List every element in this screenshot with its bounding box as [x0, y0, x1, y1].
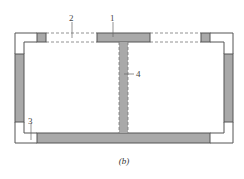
top-left-block [37, 33, 46, 42]
center-pillar [119, 42, 128, 133]
left-wall-strip [15, 54, 24, 122]
label-1: 1 [110, 13, 115, 23]
right-wall-strip [224, 54, 233, 122]
figure-caption: (b) [119, 156, 130, 166]
top-right-block [201, 33, 210, 42]
label-4: 4 [136, 69, 141, 79]
bottom-beam [37, 133, 210, 143]
label-3: 3 [28, 116, 33, 126]
top-beam [97, 33, 150, 42]
frame-diagram: 1 2 3 4 (b) [0, 0, 244, 179]
label-2: 2 [69, 13, 74, 23]
